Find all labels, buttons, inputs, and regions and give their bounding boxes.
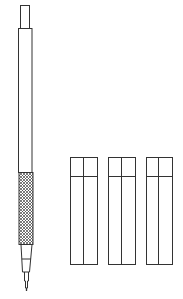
pencil-cap [21,6,30,29]
patent-figure [0,0,183,299]
pencil-cone [21,245,32,273]
lead-container-3 [147,158,173,265]
pencil-barrel [19,29,33,173]
pencil-tip-sleeve [25,272,29,288]
lead-container-2 [109,158,136,265]
pencil-knurled-grip [19,173,33,245]
lead-container-1 [71,158,98,265]
mechanical-pencil [19,6,34,292]
